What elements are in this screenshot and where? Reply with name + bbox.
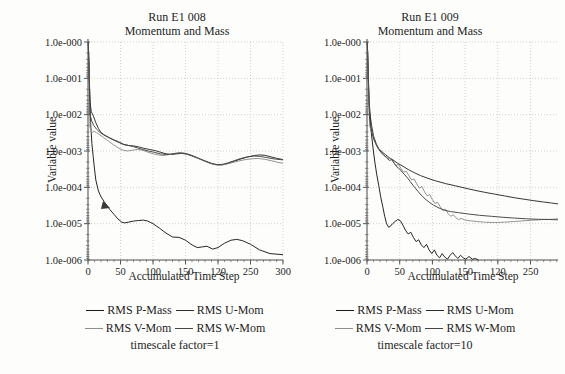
y-tick-label: 1.0e-000: [45, 37, 82, 48]
chart-title: Run E1 008: [148, 10, 205, 24]
legend-label: RMS V-Mom: [356, 321, 422, 336]
legend-label: RMS P-Mass: [357, 303, 421, 318]
charts-canvas: 1.0e-0001.0e-0011.0e-0021.0e-0031.0e-004…: [0, 0, 565, 292]
legend-left-row1: RMS P-Mass RMS U-Mom: [55, 301, 295, 319]
legend-entry-u-mom: RMS U-Mom: [176, 303, 264, 318]
legend-entry-u-mom: RMS U-Mom: [426, 303, 514, 318]
chart-subtitle: Momentum and Mass: [125, 24, 230, 38]
x-axis-title: Accumulated Time Step: [407, 270, 518, 283]
y-tick-label: 1.0e-000: [324, 37, 361, 48]
u-mom-line-swatch: [426, 310, 444, 311]
convergence-figure: 1.0e-0001.0e-0011.0e-0021.0e-0031.0e-004…: [0, 0, 565, 374]
x-tick-label: 300: [275, 266, 291, 277]
legend-entry-w-mom: RMS W-Mom: [175, 321, 265, 336]
x-tick-label: 0: [364, 266, 369, 277]
right-curve-rms-v-mom: [367, 42, 558, 223]
p-mass-line-swatch: [86, 310, 104, 311]
y-tick-label: 1.0e-005: [324, 218, 361, 229]
right-curve-rms-u-mom: [367, 42, 558, 204]
x-tick-label: 250: [243, 266, 259, 277]
legend-label: RMS V-Mom: [106, 321, 172, 336]
y-tick-label: 1.0e-001: [45, 73, 82, 84]
legend-label: RMS W-Mom: [446, 321, 515, 336]
x-tick-label: 50: [394, 266, 405, 277]
legend-left-row2: RMS V-Mom RMS W-Mom: [55, 319, 295, 337]
chart-subtitle: Momentum and Mass: [378, 24, 483, 38]
v-mom-line-swatch: [335, 328, 353, 329]
legend-right-row2: RMS V-Mom RMS W-Mom: [305, 319, 545, 337]
y-axis-title: Variable value: [329, 117, 341, 183]
legend-label: RMS U-Mom: [447, 303, 514, 318]
legend-entry-p-mass: RMS P-Mass: [336, 303, 421, 318]
legend-label: RMS P-Mass: [107, 303, 171, 318]
y-tick-label: 1.0e-005: [45, 218, 82, 229]
p-mass-line-swatch: [336, 310, 354, 311]
right-curve-rms-p-mass: [367, 42, 478, 260]
legend-label: RMS U-Mom: [197, 303, 264, 318]
legend-entry-p-mass: RMS P-Mass: [86, 303, 171, 318]
y-tick-label: 1.0e-006: [45, 255, 82, 266]
v-mom-line-swatch: [85, 328, 103, 329]
u-mom-line-swatch: [176, 310, 194, 311]
x-tick-label: 0: [85, 266, 90, 277]
legend-right: RMS P-Mass RMS U-Mom RMS V-Mom RMS W-Mom: [305, 301, 545, 337]
y-tick-label: 1.0e-006: [324, 255, 361, 266]
curve-arrow-marker: [101, 201, 110, 209]
legend-right-row1: RMS P-Mass RMS U-Mom: [305, 301, 545, 319]
w-mom-line-swatch: [425, 328, 443, 329]
legend-label: RMS W-Mom: [196, 321, 265, 336]
x-tick-label: 250: [523, 266, 539, 277]
chart-title: Run E1 009: [401, 10, 458, 24]
w-mom-line-swatch: [175, 328, 193, 329]
legend-entry-v-mom: RMS V-Mom: [85, 321, 172, 336]
timescale-caption-left: timescale factor=1: [55, 338, 295, 353]
x-axis-title: Accumulated Time Step: [128, 270, 239, 283]
x-tick-label: 50: [115, 266, 126, 277]
y-tick-label: 1.0e-001: [324, 73, 361, 84]
y-axis-title: Variable value: [46, 117, 58, 183]
timescale-caption-right: timescale factor=10: [305, 338, 545, 353]
legend-left: RMS P-Mass RMS U-Mom RMS V-Mom RMS W-Mom: [55, 301, 295, 337]
right-curve-rms-w-mom: [367, 42, 558, 220]
legend-entry-v-mom: RMS V-Mom: [335, 321, 422, 336]
legend-entry-w-mom: RMS W-Mom: [425, 321, 515, 336]
